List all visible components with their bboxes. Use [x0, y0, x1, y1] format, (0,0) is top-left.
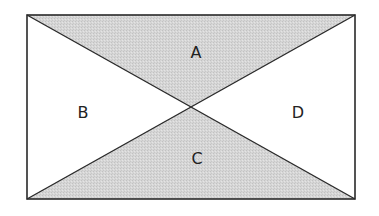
rectangle-diagonals-diagram: A B C D	[0, 0, 379, 216]
region-label-a: A	[191, 43, 202, 62]
region-label-d: D	[292, 103, 304, 122]
region-label-c: C	[191, 149, 202, 168]
region-label-b: B	[78, 103, 89, 122]
